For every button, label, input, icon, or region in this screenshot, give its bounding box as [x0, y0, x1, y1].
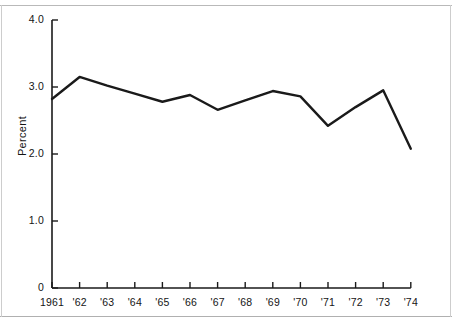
y-tick-label-3: 3.0	[18, 80, 44, 92]
x-tick-label-5: '66	[179, 296, 201, 308]
line-chart-plot	[0, 0, 452, 323]
x-tick-label-11: '72	[345, 296, 367, 308]
y-tick-label-1: 1.0	[18, 214, 44, 226]
y-tick-label-0: 0	[18, 281, 44, 293]
x-tick-label-7: '68	[234, 296, 256, 308]
x-tick-label-0: 1961	[35, 296, 69, 308]
x-tick-label-2: '63	[96, 296, 118, 308]
x-tick-label-1: '62	[69, 296, 91, 308]
axis-ticks	[52, 20, 411, 288]
series-percent-line	[52, 77, 411, 149]
x-tick-label-4: '65	[151, 296, 173, 308]
chart-figure: Percent 01.02.03.04.0 1961'62'63'64'65'6…	[0, 0, 452, 323]
x-tick-label-9: '70	[289, 296, 311, 308]
x-tick-label-8: '69	[262, 296, 284, 308]
x-tick-label-6: '67	[207, 296, 229, 308]
axes	[52, 20, 411, 288]
y-tick-label-4: 4.0	[18, 13, 44, 25]
x-tick-label-12: '73	[372, 296, 394, 308]
y-tick-label-2: 2.0	[18, 147, 44, 159]
x-tick-label-3: '64	[124, 296, 146, 308]
x-tick-label-13: '74	[400, 296, 422, 308]
x-tick-label-10: '71	[317, 296, 339, 308]
data-series	[52, 77, 411, 149]
